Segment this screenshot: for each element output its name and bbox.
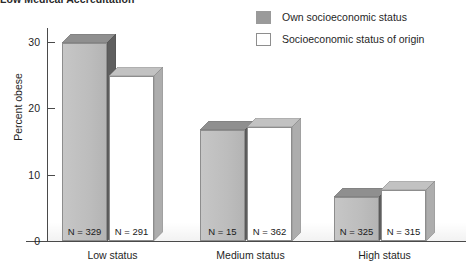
bar: N = 315 <box>381 181 435 241</box>
bar: N = 362 <box>247 118 301 241</box>
y-axis-tick-label: 20 <box>14 102 40 114</box>
bar: N = 329 <box>62 34 116 241</box>
bar-n-label: N = 362 <box>253 226 287 237</box>
bar-n-label: N = 325 <box>340 226 374 237</box>
bar: N = 325 <box>334 188 388 241</box>
y-axis-tick-label: 30 <box>14 36 40 48</box>
bar-n-label: N = 291 <box>115 226 149 237</box>
bar-n-label: N = 15 <box>208 226 236 237</box>
x-axis-line <box>26 241 466 242</box>
bar-n-label: N = 315 <box>387 226 421 237</box>
x-axis-category-label: Low status <box>87 249 137 261</box>
bar-n-label: N = 329 <box>68 226 102 237</box>
chart-container: Low Medical Accreditation Own socioecono… <box>0 0 466 267</box>
x-axis-category-label: High status <box>358 249 411 261</box>
y-axis-tick <box>47 175 55 176</box>
y-axis-tick-label: 0 <box>14 235 40 247</box>
bar-front-face: N = 362 <box>247 127 292 241</box>
x-axis-category-label: Medium status <box>216 249 284 261</box>
bar-front-face: N = 15 <box>200 130 245 241</box>
bar: N = 15 <box>200 121 254 241</box>
bar-front-face: N = 315 <box>381 190 426 241</box>
y-axis-line <box>47 28 48 242</box>
bar: N = 291 <box>109 67 163 241</box>
y-axis-tick-label: 10 <box>14 169 40 181</box>
plot-area: Percent obese 0102030 N = 329N = 291N = … <box>0 0 466 267</box>
bar-front-face: N = 325 <box>334 197 379 241</box>
bar-front-face: N = 329 <box>62 43 107 241</box>
y-axis-tick <box>47 42 55 43</box>
bar-front-face: N = 291 <box>109 76 154 241</box>
y-axis-tick <box>47 108 55 109</box>
